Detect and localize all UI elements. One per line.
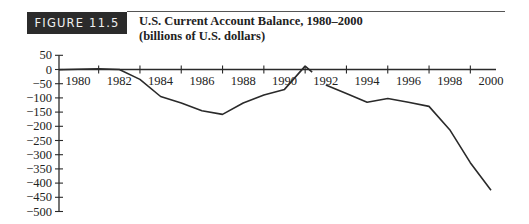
y-axis: 500−50−100−150−200−250−300−350−400−450−5… — [26, 48, 63, 218]
data-line — [59, 66, 305, 114]
data-line — [326, 85, 491, 190]
y-tick-label: −450 — [26, 190, 52, 204]
y-tick-label: 0 — [46, 63, 52, 77]
y-tick-label: −100 — [26, 91, 52, 105]
x-tick-label: 1998 — [437, 74, 462, 88]
x-tick-label: 1980 — [66, 74, 91, 88]
y-tick-label: −300 — [26, 148, 52, 162]
y-tick-label: −200 — [26, 119, 52, 133]
y-tick-label: 50 — [40, 48, 53, 62]
y-tick-label: −50 — [32, 77, 52, 91]
x-tick-label: 1994 — [355, 74, 381, 88]
x-tick-label: 1982 — [107, 74, 132, 88]
x-tick-label: 2000 — [479, 74, 504, 88]
y-tick-label: −400 — [26, 176, 52, 190]
y-tick-label: −150 — [26, 105, 52, 119]
x-tick-label: 1984 — [148, 74, 174, 88]
x-tick-label: 1986 — [189, 74, 214, 88]
y-tick-label: −250 — [26, 134, 52, 148]
y-tick-label: −500 — [26, 205, 52, 219]
y-tick-label: −350 — [26, 162, 52, 176]
x-axis: 1980198219841986198819901992199419961998… — [59, 66, 504, 88]
x-tick-label: 1988 — [231, 74, 256, 88]
x-tick-label: 1996 — [396, 74, 421, 88]
line-chart: 500−50−100−150−200−250−300−350−400−450−5… — [0, 0, 529, 224]
